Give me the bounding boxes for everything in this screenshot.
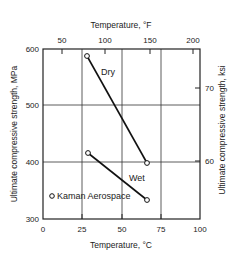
svg-text:100: 100: [193, 225, 207, 234]
bottom-axis-title: Temperature, °C: [90, 240, 152, 250]
left-axis-title: Ultimate compressive strength, MPa: [9, 65, 19, 202]
data-point: [85, 54, 90, 59]
right-axis-ticks: [195, 88, 200, 161]
data-point: [86, 151, 91, 156]
data-point: [145, 161, 150, 166]
series-label-dry: Dry: [101, 67, 115, 77]
svg-text:400: 400: [26, 158, 40, 167]
svg-text:50: 50: [58, 36, 67, 45]
series-label-wet: Wet: [129, 173, 145, 183]
data-point: [145, 198, 150, 203]
svg-text:200: 200: [186, 36, 200, 45]
svg-text:100: 100: [98, 36, 112, 45]
svg-text:75: 75: [157, 225, 166, 234]
legend-label: Kaman Aerospace: [57, 191, 131, 201]
svg-text:500: 500: [26, 101, 40, 110]
compressive-strength-chart: Temperature, °F 50 100 150 200 0 25 50 7…: [0, 0, 239, 260]
legend-marker-icon: [50, 194, 55, 199]
right-axis-title: Ultimate compressive strength, ksi: [217, 65, 227, 195]
right-tick-labels: 70 60: [205, 84, 214, 166]
legend: Kaman Aerospace: [50, 191, 131, 201]
svg-text:25: 25: [78, 225, 87, 234]
svg-text:60: 60: [205, 157, 214, 166]
svg-text:70: 70: [205, 84, 214, 93]
svg-text:150: 150: [143, 36, 157, 45]
svg-text:50: 50: [118, 225, 127, 234]
bottom-tick-labels: 0 25 50 75 100: [41, 225, 207, 234]
series-dry: Dry: [85, 54, 150, 166]
left-tick-labels: 600 500 400 300: [26, 45, 40, 224]
svg-text:300: 300: [26, 215, 40, 224]
top-tick-labels: 50 100 150 200: [58, 36, 201, 45]
top-axis-title: Temperature, °F: [90, 20, 151, 30]
svg-text:0: 0: [41, 225, 46, 234]
svg-text:600: 600: [26, 45, 40, 54]
bottom-axis-ticks: [82, 214, 161, 219]
